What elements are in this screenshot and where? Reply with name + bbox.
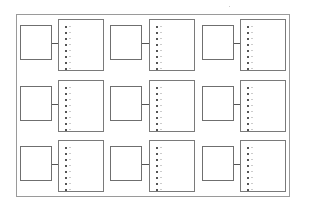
bullet-text-placeholder bbox=[69, 177, 71, 178]
bullet-icon bbox=[65, 68, 67, 70]
bullet-text-placeholder bbox=[160, 171, 162, 172]
bullet-text-placeholder bbox=[160, 159, 162, 160]
bullet-icon bbox=[247, 111, 249, 113]
bullet-item bbox=[247, 176, 253, 179]
bullet-item bbox=[247, 104, 253, 107]
list-node-r2-c3 bbox=[240, 80, 286, 132]
bullet-icon bbox=[156, 111, 158, 113]
bullet-icon bbox=[156, 62, 158, 64]
bullet-item bbox=[65, 152, 71, 155]
bullet-list bbox=[156, 25, 162, 70]
bullet-text-placeholder bbox=[251, 62, 253, 63]
bullet-text-placeholder bbox=[160, 117, 162, 118]
bullet-item bbox=[247, 25, 253, 28]
bullet-icon bbox=[156, 87, 158, 89]
bullet-text-placeholder bbox=[69, 56, 71, 57]
bullet-text-placeholder bbox=[251, 68, 253, 69]
bullet-item bbox=[65, 25, 71, 28]
bullet-icon bbox=[247, 32, 249, 34]
bullet-item bbox=[156, 92, 162, 95]
bullet-icon bbox=[65, 62, 67, 64]
bullet-item bbox=[65, 164, 71, 167]
bullet-text-placeholder bbox=[69, 123, 71, 124]
bullet-icon bbox=[65, 26, 67, 28]
bullet-icon bbox=[156, 123, 158, 125]
bullet-text-placeholder bbox=[160, 147, 162, 148]
connector-r3-c1 bbox=[52, 164, 58, 165]
left-node-r1-c2 bbox=[110, 25, 142, 60]
bullet-text-placeholder bbox=[160, 123, 162, 124]
bullet-item bbox=[65, 188, 71, 191]
bullet-icon bbox=[247, 129, 249, 131]
bullet-text-placeholder bbox=[69, 99, 71, 100]
bullet-text-placeholder bbox=[251, 44, 253, 45]
bullet-icon bbox=[247, 87, 249, 89]
bullet-item bbox=[65, 176, 71, 179]
bullet-list bbox=[247, 86, 253, 131]
bullet-text-placeholder bbox=[69, 189, 71, 190]
bullet-text-placeholder bbox=[251, 177, 253, 178]
bullet-text-placeholder bbox=[160, 26, 162, 27]
bullet-icon bbox=[247, 62, 249, 64]
bullet-list bbox=[65, 146, 71, 191]
bullet-item bbox=[156, 170, 162, 173]
bullet-icon bbox=[247, 147, 249, 149]
bullet-icon bbox=[156, 159, 158, 161]
bullet-icon bbox=[247, 153, 249, 155]
bullet-icon bbox=[65, 189, 67, 191]
bullet-text-placeholder bbox=[160, 87, 162, 88]
bullet-icon bbox=[156, 117, 158, 119]
bullet-icon bbox=[65, 56, 67, 58]
bullet-item bbox=[247, 67, 253, 70]
bullet-text-placeholder bbox=[69, 50, 71, 51]
bullet-text-placeholder bbox=[160, 44, 162, 45]
bullet-item bbox=[65, 110, 71, 113]
bullet-list bbox=[247, 146, 253, 191]
bullet-icon bbox=[65, 159, 67, 161]
bullet-icon bbox=[156, 189, 158, 191]
list-node-r3-c3 bbox=[240, 140, 286, 192]
bullet-text-placeholder bbox=[251, 183, 253, 184]
bullet-item bbox=[65, 128, 71, 131]
bullet-text-placeholder bbox=[251, 147, 253, 148]
bullet-icon bbox=[156, 44, 158, 46]
bullet-text-placeholder bbox=[69, 87, 71, 88]
bullet-item bbox=[65, 158, 71, 161]
bullet-item bbox=[65, 43, 71, 46]
left-node-r3-c3 bbox=[202, 146, 234, 181]
bullet-text-placeholder bbox=[251, 38, 253, 39]
bullet-icon bbox=[65, 111, 67, 113]
bullet-text-placeholder bbox=[251, 32, 253, 33]
connector-r2-c2 bbox=[142, 104, 149, 105]
bullet-item bbox=[247, 92, 253, 95]
list-node-r1-c2 bbox=[149, 19, 195, 71]
bullet-icon bbox=[156, 183, 158, 185]
left-node-r1-c3 bbox=[202, 25, 234, 60]
bullet-text-placeholder bbox=[160, 165, 162, 166]
bullet-icon bbox=[156, 32, 158, 34]
bullet-icon bbox=[156, 26, 158, 28]
bullet-text-placeholder bbox=[160, 32, 162, 33]
bullet-text-placeholder bbox=[160, 111, 162, 112]
bullet-icon bbox=[65, 147, 67, 149]
bullet-text-placeholder bbox=[69, 147, 71, 148]
bullet-text-placeholder bbox=[69, 183, 71, 184]
left-node-r2-c1 bbox=[20, 86, 52, 121]
bullet-text-placeholder bbox=[69, 153, 71, 154]
bullet-text-placeholder bbox=[251, 129, 253, 130]
bullet-item bbox=[156, 182, 162, 185]
bullet-icon bbox=[156, 147, 158, 149]
bullet-icon bbox=[65, 117, 67, 119]
list-node-r3-c1 bbox=[58, 140, 104, 192]
bullet-item bbox=[156, 146, 162, 149]
bullet-text-placeholder bbox=[160, 62, 162, 63]
list-node-r2-c2 bbox=[149, 80, 195, 132]
bullet-item bbox=[156, 31, 162, 34]
bullet-item bbox=[156, 164, 162, 167]
bullet-icon bbox=[65, 171, 67, 173]
bullet-icon bbox=[65, 129, 67, 131]
bullet-item bbox=[65, 104, 71, 107]
bullet-text-placeholder bbox=[251, 165, 253, 166]
bullet-icon bbox=[247, 93, 249, 95]
bullet-item bbox=[156, 49, 162, 52]
